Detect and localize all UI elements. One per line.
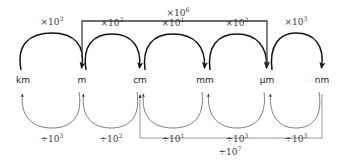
multiply-label-mm-um: ×103	[226, 15, 249, 27]
multiply-exp-km-m: 3	[60, 14, 64, 21]
long-bracket-multiply-op: ×10	[167, 8, 186, 18]
divide-arc-group	[22, 92, 320, 128]
multiply-op-m-cm: ×10	[101, 18, 120, 28]
divide-op-nm-um: ÷10	[285, 134, 304, 144]
divide-arc-m-km	[22, 92, 80, 128]
long-bracket-multiply-m-to-um	[82, 21, 267, 66]
divide-arc-mm-cm	[143, 92, 202, 128]
multiply-arc-mm-um	[210, 34, 267, 70]
long-bracket-label-multiply: ×106	[167, 5, 190, 17]
long-bracket-multiply-exp: 6	[186, 5, 190, 12]
multiply-exp-mm-um: 3	[245, 15, 249, 22]
multiply-op-mm-um: ×10	[226, 18, 245, 28]
multiply-arc-cm-mm	[145, 34, 205, 70]
divide-label-cm-m: ÷102	[100, 131, 123, 143]
node-label-nm: nm	[315, 75, 329, 85]
divide-arc-nm-um	[270, 92, 320, 128]
divide-exp-cm-m: 2	[119, 131, 123, 138]
node-label-group: km m cm mm µm nm	[16, 75, 329, 85]
multiply-label-km-m: ×103	[41, 14, 64, 26]
long-bracket-label-divide: ÷107	[219, 144, 242, 156]
divide-exp-mm-cm: 1	[181, 131, 185, 138]
long-bracket-divide-nm-to-cm	[140, 94, 322, 138]
divide-arc-cm-m	[83, 92, 138, 128]
divide-op-cm-m: ÷10	[100, 134, 119, 144]
divide-op-m-km: ÷10	[41, 134, 60, 144]
long-bracket-divide-exp: 7	[238, 144, 242, 151]
divide-exp-m-km: 3	[60, 131, 64, 138]
multiply-arc-group	[20, 33, 322, 70]
unit-conversion-diagram: km m cm mm µm nm ×103 ×102 ×101 ×103 ×10…	[0, 0, 346, 162]
multiply-exp-m-cm: 2	[120, 15, 124, 22]
multiply-label-m-cm: ×102	[101, 15, 124, 27]
multiply-exp-um-nm: 3	[304, 14, 308, 21]
diagram-canvas: km m cm mm µm nm ×103 ×102 ×101 ×103 ×10…	[0, 0, 346, 162]
multiply-arc-m-cm	[85, 34, 140, 70]
multiply-op-cm-mm: ×10	[162, 18, 181, 28]
multiply-arc-um-nm	[271, 33, 322, 70]
multiply-arc-km-m	[20, 33, 82, 70]
divide-label-um-mm: ÷103	[226, 131, 249, 143]
multiply-op-um-nm: ×10	[285, 17, 304, 27]
divide-arc-um-mm	[208, 92, 264, 128]
divide-label-nm-um: ÷103	[285, 131, 308, 143]
divide-op-um-mm: ÷10	[226, 134, 245, 144]
node-label-m: m	[78, 75, 87, 85]
divide-op-mm-cm: ÷10	[162, 134, 181, 144]
node-label-cm: cm	[133, 75, 147, 85]
divide-label-m-km: ÷103	[41, 131, 64, 143]
multiply-op-km-m: ×10	[41, 17, 60, 27]
divide-exp-nm-um: 3	[304, 131, 308, 138]
divide-label-group: ÷103 ÷102 ÷101 ÷103 ÷103	[41, 131, 308, 143]
divide-exp-um-mm: 3	[245, 131, 249, 138]
node-label-um: µm	[260, 75, 275, 85]
long-bracket-divide-op: ÷10	[219, 147, 238, 157]
multiply-label-um-nm: ×103	[285, 14, 308, 26]
node-label-km: km	[16, 75, 30, 85]
node-label-mm: mm	[196, 75, 214, 85]
divide-label-mm-cm: ÷101	[162, 131, 185, 143]
